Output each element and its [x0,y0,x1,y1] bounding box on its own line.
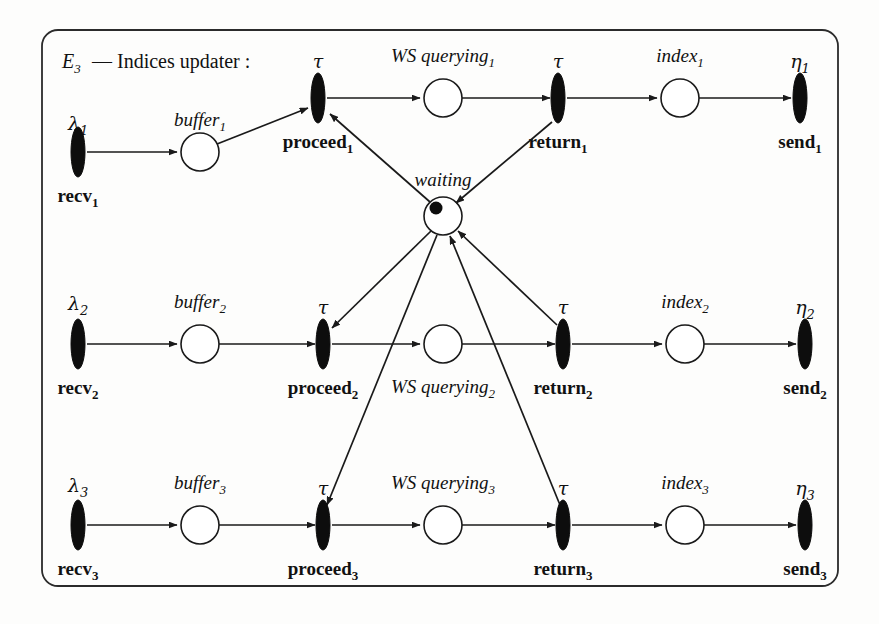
petri-net-figure: E3 — Indices updater : λ1 recv1 buffer1 … [0,0,879,624]
row3-return-label: return3 [534,558,593,583]
row3-proceed-label: proceed3 [288,558,359,583]
row1-send-label: send1 [778,131,821,156]
arc-waiting-proceed1 [330,114,430,202]
figure-page: E3 — Indices updater : λ1 recv1 buffer1 … [0,0,879,624]
transition-return-3[interactable] [556,500,570,550]
arc-return1-waiting [456,122,552,203]
transition-recv-3[interactable] [71,500,85,550]
figure-title-symbol: E3 [61,50,81,76]
row1-proceed-label: proceed1 [283,131,354,156]
row2-querying-label: WS querying2 [391,376,496,401]
arc-waiting-proceed3 [327,235,437,505]
transition-send-1[interactable] [793,73,807,123]
row2-buffer-label: buffer2 [174,291,226,316]
row2-proceed-tau: τ [318,296,329,318]
arc-return2-waiting [458,231,557,325]
row3-lambda-label: λ3 [67,474,88,500]
transition-recv-2[interactable] [71,319,85,369]
row3-recv-label: recv3 [58,558,99,583]
row2-recv-label: recv2 [58,377,99,402]
row3-querying-label: WS querying3 [391,472,496,497]
place-buffer-1[interactable] [181,133,219,171]
row2-lambda-label: λ2 [67,292,88,318]
transition-send-3[interactable] [798,500,812,550]
row3-index-label: index3 [661,472,709,497]
place-buffer-3[interactable] [181,506,219,544]
row1-eta-label: η1 [790,50,810,76]
figure-title-text: — Indices updater : [91,50,250,73]
place-ws-querying-1[interactable] [424,79,462,117]
row1-buffer-label: buffer1 [174,109,226,134]
place-ws-querying-3[interactable] [424,506,462,544]
place-ws-querying-2[interactable] [424,325,462,363]
row3-send-label: send3 [783,558,827,583]
row1-recv-label: recv1 [58,185,99,210]
transition-proceed-3[interactable] [316,500,330,550]
row1-querying-label: WS querying1 [391,45,495,70]
transition-return-2[interactable] [556,319,570,369]
place-buffer-2[interactable] [181,325,219,363]
row2-return-label: return2 [534,377,593,402]
arc-waiting-proceed2 [332,231,431,328]
waiting-place-label: waiting [414,169,471,190]
row2-send-label: send2 [783,377,826,402]
place-index-2[interactable] [666,325,704,363]
row2-proceed-label: proceed2 [288,377,359,402]
row2-return-tau: τ [558,296,569,318]
row1-proceed-tau: τ [313,50,324,72]
waiting-token [430,202,443,215]
row2-eta-label: η2 [795,296,815,322]
row1-index-label: index1 [656,45,704,70]
place-index-1[interactable] [661,79,699,117]
row3-return-tau: τ [558,477,569,499]
transition-recv-1[interactable] [71,127,85,177]
transition-return-1[interactable] [551,73,565,123]
row1-return-tau: τ [553,50,564,72]
transition-proceed-2[interactable] [316,319,330,369]
row3-buffer-label: buffer3 [174,472,226,497]
row2-index-label: index2 [661,291,709,316]
place-index-3[interactable] [666,506,704,544]
transition-proceed-1[interactable] [311,73,325,123]
row3-proceed-tau: τ [318,477,329,499]
row3-eta-label: η3 [795,477,815,503]
transition-send-2[interactable] [798,319,812,369]
